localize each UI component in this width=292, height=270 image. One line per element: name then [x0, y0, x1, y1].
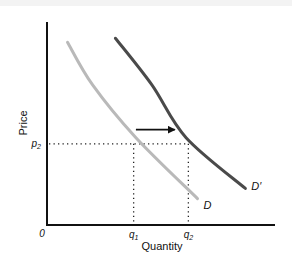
curve-label-d-prime: D′	[251, 180, 262, 192]
tick-label-q1: q1	[129, 229, 139, 241]
demand-curve-d-prime	[115, 38, 245, 188]
demand-shift-diagram: Price Quantity 0 p2 q1 q2 D D′	[0, 0, 292, 270]
tick-label-q2: q2	[184, 229, 194, 241]
tick-label-p2-sub: 2	[36, 143, 41, 150]
tick-label-q1-sub: 1	[134, 234, 138, 241]
curve-label-d: D	[203, 199, 211, 211]
tick-label-p2: p2	[31, 138, 42, 150]
tick-label-q2-sub: 2	[188, 234, 193, 241]
origin-label: 0	[39, 228, 45, 239]
demand-curve-d	[68, 42, 198, 198]
x-axis-label: Quantity	[142, 240, 183, 252]
y-axis-label: Price	[17, 110, 29, 135]
